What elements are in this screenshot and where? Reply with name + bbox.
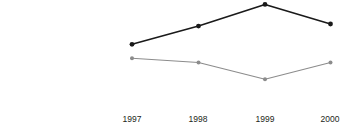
x-tick-label: 1997 [112, 114, 152, 124]
x-tick-label: 1999 [245, 114, 285, 124]
x-tick-label: 1998 [178, 114, 218, 124]
x-axis: 1997 1998 1999 2000 [0, 0, 344, 136]
x-tick-label: 2000 [310, 114, 344, 124]
line-chart: $225,000 $200,000 $175,000 $150,000 $125… [0, 0, 344, 136]
